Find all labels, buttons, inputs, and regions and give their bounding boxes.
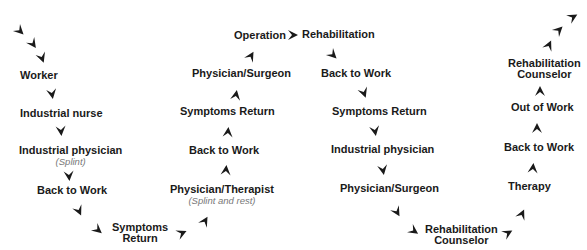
node-label: Back to Work — [504, 141, 574, 153]
arrow-btw1-symptoms-b — [92, 224, 104, 236]
node-label: Operation — [234, 29, 286, 41]
node-back-to-work-4: Back to Work — [504, 142, 574, 153]
node-label-2: Counselor — [434, 234, 488, 246]
node-label: Physician/Surgeon — [192, 67, 291, 79]
arrow-start-3 — [36, 52, 48, 64]
arrow-physsurgeon2-rehabcounselor-a — [391, 206, 403, 218]
node-label: Out of Work — [511, 101, 574, 113]
node-industrial-physician-1: Industrial physician (Splint) — [19, 145, 122, 167]
node-physician-therapist: Physician/Therapist (Splint and rest) — [170, 184, 274, 206]
node-symptoms-return-2: Symptoms Return — [180, 106, 275, 117]
node-rehabilitation: Rehabilitation — [302, 29, 375, 40]
arrow-outofwork-rehabcounselor2 — [534, 85, 546, 97]
node-label: Physician/Surgeon — [340, 182, 439, 194]
arrow-worker-nurse — [46, 88, 58, 100]
node-label: Industrial physician — [331, 143, 434, 155]
arrow-rehab-btw3 — [327, 49, 339, 61]
arrow-symptoms-phystherapist-b — [199, 215, 211, 227]
node-label-2: Return — [122, 232, 157, 244]
arrow-rehabcounselor-therapy-b — [516, 208, 528, 220]
arrow-indphys2-physsurgeon2 — [377, 164, 389, 176]
arrow-btw4-outofwork — [531, 122, 543, 134]
node-rehab-counselor-2: Rehabilitation Counselor — [508, 58, 581, 80]
node-label: Back to Work — [37, 184, 107, 196]
node-label: Symptoms Return — [180, 105, 275, 117]
node-physician-surgeon-1: Physician/Surgeon — [192, 68, 291, 79]
arrow-physsurgeon-operation — [245, 50, 257, 62]
node-note: (Splint and rest) — [170, 196, 274, 206]
node-label-2: Counselor — [517, 68, 571, 80]
node-label: Physician/Therapist — [170, 183, 274, 195]
node-label: Rehabilitation — [302, 28, 375, 40]
node-therapy: Therapy — [508, 181, 551, 192]
arrow-end-2 — [553, 24, 565, 36]
node-industrial-nurse: Industrial nurse — [20, 108, 103, 119]
node-back-to-work-3: Back to Work — [321, 68, 391, 79]
arrow-btw3-symptoms3 — [358, 87, 370, 99]
arrow-rehabcounselor-therapy-a — [502, 227, 514, 239]
arrow-start-2 — [27, 38, 39, 50]
node-industrial-physician-2: Industrial physician — [331, 144, 434, 155]
node-back-to-work-2: Back to Work — [189, 145, 259, 156]
node-out-of-work: Out of Work — [511, 102, 574, 113]
arrow-btw2-symptoms2 — [222, 126, 234, 138]
node-label: Worker — [20, 69, 58, 81]
arrow-symptoms-phystherapist-a — [176, 227, 188, 239]
arrow-symptoms2-physsurgeon — [230, 89, 242, 101]
node-label: Symptoms Return — [332, 105, 427, 117]
arrow-nurse-indphys — [55, 125, 67, 137]
node-label: Industrial nurse — [20, 107, 103, 119]
node-label: Industrial physician — [19, 144, 122, 156]
node-note: (Splint) — [19, 157, 122, 167]
arrow-phystherapist-btw2 — [220, 164, 232, 176]
arrow-indphys-btw1 — [63, 170, 75, 182]
arrow-therapy-btw4 — [527, 162, 539, 174]
node-back-to-work-1: Back to Work — [37, 185, 107, 196]
node-worker: Worker — [20, 70, 58, 81]
node-rehab-counselor-1: Rehabilitation Counselor — [425, 224, 498, 246]
arrow-end-1 — [543, 39, 555, 51]
arrow-btw1-symptoms-a — [73, 205, 85, 217]
node-physician-surgeon-2: Physician/Surgeon — [340, 183, 439, 194]
node-label: Back to Work — [321, 67, 391, 79]
arrow-physsurgeon2-rehabcounselor-b — [408, 225, 420, 237]
arrow-symptoms3-indphys2 — [369, 125, 381, 137]
node-symptoms-return-1: Symptoms Return — [112, 222, 168, 244]
arrow-operation-rehab — [287, 29, 299, 41]
node-symptoms-return-3: Symptoms Return — [332, 106, 427, 117]
node-label: Back to Work — [189, 144, 259, 156]
node-label: Therapy — [508, 180, 551, 192]
arrow-end-3 — [567, 11, 579, 23]
node-operation: Operation — [234, 30, 286, 41]
arrow-start-1 — [14, 25, 26, 37]
